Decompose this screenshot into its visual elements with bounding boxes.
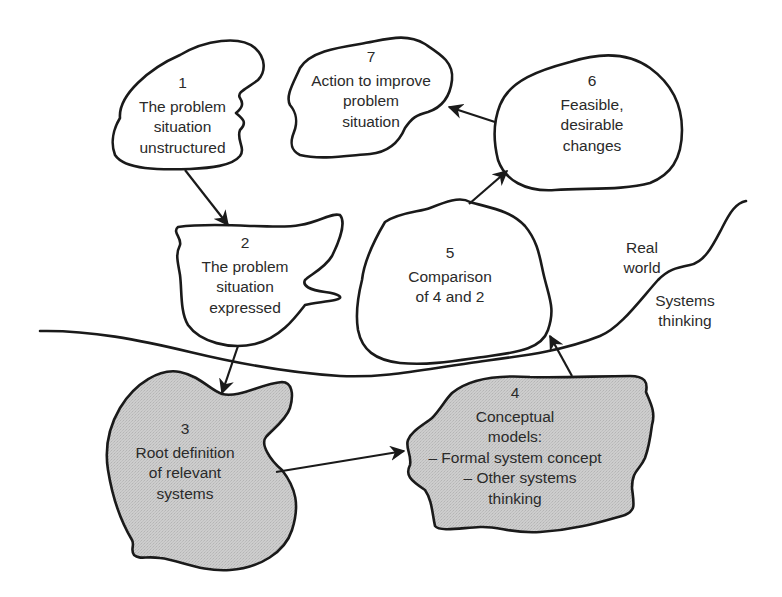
node-4-text-line: models: bbox=[410, 427, 620, 448]
node-3-text-line: Root definition bbox=[120, 443, 250, 464]
node-5-text-line: Comparison bbox=[390, 267, 510, 288]
systems-thinking-label-line: thinking bbox=[645, 311, 725, 331]
systems-thinking-label-line: Systems bbox=[645, 291, 725, 311]
node-7-text-line: problem bbox=[300, 91, 442, 112]
arrow-2-to-3 bbox=[222, 346, 238, 393]
node-1-text-line: unstructured bbox=[120, 138, 245, 159]
node-2-number: 2 bbox=[180, 233, 310, 254]
node-3-number: 3 bbox=[120, 419, 250, 440]
arrow-4-to-5 bbox=[550, 336, 572, 376]
node-2-text-line: The problem bbox=[180, 257, 310, 278]
node-2-label: 2 The problem situation expressed bbox=[180, 233, 310, 318]
node-1-number: 1 bbox=[120, 73, 245, 94]
node-4-text-line: – Formal system concept bbox=[410, 448, 620, 469]
node-5-label: 5 Comparison of 4 and 2 bbox=[390, 243, 510, 308]
node-3-text-line: systems bbox=[120, 484, 250, 505]
node-6-number: 6 bbox=[537, 71, 647, 92]
node-2-text-line: situation bbox=[180, 277, 310, 298]
node-5-number: 5 bbox=[390, 243, 510, 264]
real-world-label-line: Real bbox=[612, 238, 672, 258]
node-7-number: 7 bbox=[300, 47, 442, 68]
node-7-text-line: situation bbox=[300, 112, 442, 133]
node-5-text-line: of 4 and 2 bbox=[390, 287, 510, 308]
node-4-text-line: – Other systems bbox=[410, 468, 620, 489]
node-1-text-line: situation bbox=[120, 117, 245, 138]
node-7-text-line: Action to improve bbox=[300, 71, 442, 92]
arrow-6-to-7 bbox=[449, 107, 495, 122]
node-3-text-line: of relevant bbox=[120, 463, 250, 484]
arrow-5-to-6 bbox=[469, 171, 507, 204]
node-6-label: 6 Feasible, desirable changes bbox=[537, 71, 647, 156]
node-4-text-line: thinking bbox=[410, 489, 620, 510]
node-2-text-line: expressed bbox=[180, 298, 310, 319]
real-world-label: Real world bbox=[612, 238, 672, 278]
node-6-text-line: changes bbox=[537, 136, 647, 157]
node-6-text-line: Feasible, bbox=[537, 95, 647, 116]
node-6-text-line: desirable bbox=[537, 115, 647, 136]
systems-thinking-label: Systems thinking bbox=[645, 291, 725, 331]
node-3-label: 3 Root definition of relevant systems bbox=[120, 419, 250, 504]
node-4-text-line: Conceptual bbox=[410, 407, 620, 428]
node-4-label: 4 Conceptual models: – Formal system con… bbox=[410, 383, 620, 509]
node-1-text-line: The problem bbox=[120, 97, 245, 118]
real-world-label-line: world bbox=[612, 258, 672, 278]
node-1-label: 1 The problem situation unstructured bbox=[120, 73, 245, 158]
arrow-3-to-4 bbox=[276, 451, 404, 472]
arrow-1-to-2 bbox=[185, 170, 228, 225]
node-4-number: 4 bbox=[410, 383, 620, 404]
node-7-label: 7 Action to improve problem situation bbox=[300, 47, 442, 132]
